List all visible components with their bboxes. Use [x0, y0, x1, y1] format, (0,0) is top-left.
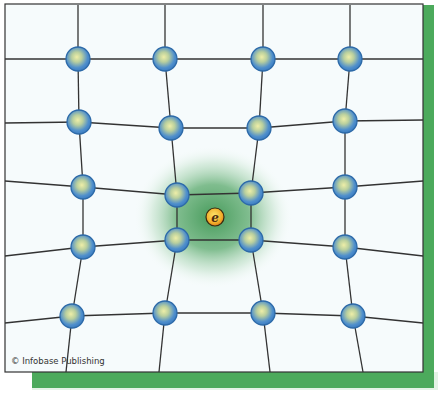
- copyright-credit: © Infobase Publishing: [11, 356, 105, 366]
- ion: [239, 181, 263, 205]
- ion: [71, 235, 95, 259]
- ion: [66, 47, 90, 71]
- ion: [71, 175, 95, 199]
- ion: [67, 110, 91, 134]
- ion: [333, 235, 357, 259]
- ion: [247, 116, 271, 140]
- electron-label: e: [211, 211, 219, 225]
- ion: [341, 304, 365, 328]
- ion: [333, 109, 357, 133]
- ion: [153, 301, 177, 325]
- lattice-diagram: e © Infobase Publishing: [0, 0, 439, 394]
- ion: [251, 301, 275, 325]
- ion: [251, 47, 275, 71]
- lattice-svg: e: [0, 0, 439, 394]
- ion: [153, 47, 177, 71]
- ion: [333, 175, 357, 199]
- ion: [165, 183, 189, 207]
- electron: e: [206, 208, 224, 226]
- ion: [239, 228, 263, 252]
- ion: [159, 116, 183, 140]
- ion: [338, 47, 362, 71]
- ion: [165, 228, 189, 252]
- ion: [60, 304, 84, 328]
